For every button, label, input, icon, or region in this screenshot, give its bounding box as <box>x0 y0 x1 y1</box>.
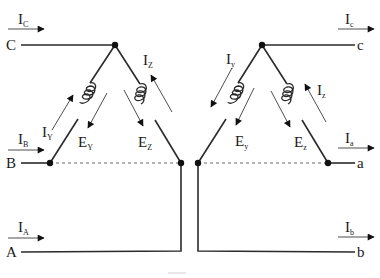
primary-side: IC C IB B IA A IY EY <box>6 11 184 260</box>
winding-y: Iy Ey <box>198 45 262 163</box>
node-secondary-a <box>325 160 331 166</box>
wire-A <box>21 163 181 252</box>
node-primary-right <box>178 160 184 166</box>
wire-b <box>198 163 355 252</box>
label-ia-secondary: Ia <box>345 130 354 148</box>
label-iy: IY <box>42 124 53 142</box>
arrow-iz <box>151 75 172 112</box>
arrow-iy-secondary <box>211 68 232 107</box>
current-arrow-ia-secondary: Ia <box>338 130 374 148</box>
arrow-ey-secondary <box>236 88 254 125</box>
terminal-label-a: a <box>357 155 364 171</box>
label-iz: IZ <box>143 52 153 70</box>
coil-z <box>282 84 294 104</box>
current-arrow-ic: IC <box>8 11 44 29</box>
current-arrow-ic-secondary: Ic <box>338 11 374 29</box>
label-iz-secondary: Iz <box>317 82 326 100</box>
current-arrow-ia: IA <box>8 219 44 238</box>
node-primary-top <box>112 42 118 48</box>
label-ey: EY <box>78 134 93 152</box>
terminal-label-b: b <box>357 244 365 260</box>
coil-Z <box>135 84 147 104</box>
coil-y <box>228 83 244 104</box>
arrow-iz-secondary <box>305 84 326 122</box>
node-primary-B <box>47 160 53 166</box>
secondary-side: Ic c Ia a Ib b Iy Ey <box>195 11 374 260</box>
node-secondary-left <box>195 160 201 166</box>
winding-Z: EZ IZ <box>115 45 181 163</box>
arrow-iy <box>52 95 73 130</box>
label-iy-secondary: Iy <box>226 51 235 69</box>
label-ib-secondary: Ib <box>345 219 354 237</box>
label-ez-secondary: Ez <box>294 134 307 152</box>
transformer-diagram: IC C IB B IA A IY EY <box>0 0 380 278</box>
current-arrow-ib: IB <box>8 131 44 150</box>
current-arrow-ib-secondary: Ib <box>338 219 374 237</box>
label-ic: IC <box>18 11 28 29</box>
terminal-label-A: A <box>6 244 17 260</box>
node-secondary-top <box>259 42 265 48</box>
label-ic-secondary: Ic <box>345 11 354 29</box>
winding-z: Ez Iz <box>262 45 328 163</box>
terminal-label-B: B <box>6 155 16 171</box>
terminal-label-c: c <box>357 37 364 53</box>
coil-Y <box>80 83 96 104</box>
label-ey-secondary: Ey <box>235 133 248 151</box>
winding-Y: IY EY <box>42 45 115 163</box>
label-ib: IB <box>18 131 28 149</box>
label-ez: EZ <box>138 134 152 152</box>
terminal-label-C: C <box>6 37 16 53</box>
label-ia: IA <box>18 219 29 237</box>
